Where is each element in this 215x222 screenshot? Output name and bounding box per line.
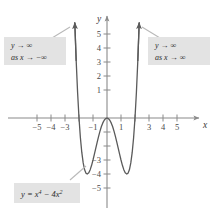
x-axis-label: x <box>202 120 208 130</box>
quartic-graph-figure: −5 −4 −3 −1 1 3 4 5 5 4 3 2 1 −3 −4 −5 x… <box>0 0 215 222</box>
x-tick-label--3: −3 <box>60 122 69 132</box>
y-tick-label-2: 2 <box>97 71 101 81</box>
y-tick-label-3: 3 <box>97 57 101 67</box>
equation-prefix: y = x <box>20 189 39 199</box>
y-tick-label--4: −4 <box>92 169 102 179</box>
y-tick-label--5: −5 <box>92 183 101 193</box>
callout-left-line2: as x → −∞ <box>11 53 47 62</box>
x-tick-label-1: 1 <box>119 122 123 132</box>
x-tick-label--4: −4 <box>46 122 56 132</box>
y-axis-label: y <box>96 14 102 24</box>
x-tick-label--1: −1 <box>88 122 97 132</box>
x-tick-label-5: 5 <box>175 122 179 132</box>
callout-right-line2: as x → ∞ <box>155 53 186 62</box>
equation-exponent-2: 2 <box>60 189 63 195</box>
x-tick-label--5: −5 <box>32 122 41 132</box>
callout-left: y → ∞ as x → −∞ <box>4 37 66 65</box>
y-tick-label-1: 1 <box>97 85 101 95</box>
y-tick-label-5: 5 <box>97 29 101 39</box>
callout-right-line1: y → ∞ <box>154 41 177 50</box>
callout-equation: y = x4 − 4x2 <box>14 183 80 203</box>
x-tick-label-3: 3 <box>147 122 151 132</box>
callout-left-line1: y → ∞ <box>10 41 33 50</box>
callout-right: y → ∞ as x → ∞ <box>148 37 210 65</box>
equation-text: y = x4 − 4x2 <box>20 189 63 199</box>
equation-middle: − 4x <box>42 189 60 199</box>
